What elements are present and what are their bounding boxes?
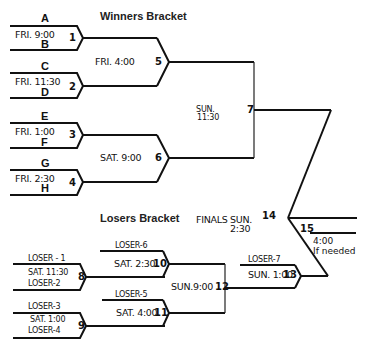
game-4-number: 4 (69, 178, 76, 188)
game-13-number: 13 (283, 270, 297, 280)
game-5-number: 5 (155, 57, 162, 67)
bracket-lines (0, 0, 370, 349)
team-f: F (41, 137, 48, 148)
game-15-note: If needed (313, 247, 355, 256)
game-3-number: 3 (69, 130, 76, 140)
game-12-time: SUN.9:00 (171, 282, 213, 292)
game-8-bottom-slot: LOSER-2 (28, 280, 60, 288)
game-10-top-slot: LOSER-6 (115, 242, 147, 250)
game-11-top-slot: LOSER-5 (115, 291, 147, 299)
game-6-time: SAT. 9:00 (100, 153, 141, 163)
game-15-number: 15 (300, 224, 314, 234)
losers-bracket-title: Losers Bracket (100, 213, 180, 224)
game-1-number: 1 (69, 33, 76, 43)
game-10-time: SAT. 2:30 (114, 259, 155, 269)
team-d: D (41, 87, 49, 98)
game-11-time: SAT. 4:00 (116, 308, 157, 318)
game-10-number: 10 (153, 259, 167, 269)
team-a: A (41, 13, 49, 24)
team-h: H (41, 183, 49, 194)
game-2-time: FRI. 11:30 (15, 77, 60, 87)
team-e: E (41, 111, 48, 122)
game-8-number: 8 (78, 272, 85, 282)
game-7-lines (254, 62, 331, 218)
game-8-top-slot: LOSER - 1 (28, 255, 65, 263)
game-7-number: 7 (247, 105, 254, 115)
game-12-number: 12 (215, 282, 229, 292)
game-5-lines (157, 38, 254, 86)
game-9-time: SAT. 1:00 (30, 316, 65, 324)
team-b: B (41, 39, 49, 50)
game-13-top-slot: LOSER-7 (248, 256, 280, 264)
game-6-lines (157, 135, 254, 182)
game-11-number: 11 (154, 308, 168, 318)
game-9-number: 9 (78, 321, 85, 331)
team-c: C (41, 61, 49, 72)
game-6-number: 6 (155, 153, 162, 163)
game-3-time: FRI. 1:00 (15, 127, 55, 137)
game-14-number: 14 (262, 211, 276, 221)
team-g: G (41, 158, 50, 169)
game-9-bottom-slot: LOSER-4 (28, 327, 60, 335)
game-2-number: 2 (69, 82, 76, 92)
finals-time: 2:30 (230, 224, 250, 234)
game-9-top-slot: LOSER-3 (28, 303, 60, 311)
game-5-time: FRI. 4:00 (95, 57, 135, 67)
game-8-time: SAT. 11:30 (28, 269, 68, 277)
game-7-time-hour: 11:30 (197, 114, 219, 122)
winners-bracket-title: Winners Bracket (100, 11, 187, 22)
game-15-time: 4:00 (313, 237, 333, 246)
